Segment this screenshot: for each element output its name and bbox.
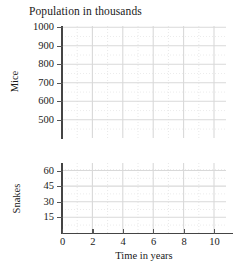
- x-axis-line: [61, 233, 233, 235]
- chart-title: Population in thousands: [29, 5, 142, 17]
- xtick-label-4: 4: [111, 236, 135, 247]
- xtick-label-6: 6: [142, 236, 166, 247]
- mice-gridlines: [62, 26, 226, 138]
- snakes-ytick-60: [57, 171, 63, 172]
- xtick-6: [153, 229, 154, 234]
- mice-plot-area: [62, 26, 226, 138]
- xtick-label-10: 10: [202, 236, 226, 247]
- mice-ytick-800: [57, 64, 63, 65]
- snakes-y-axis-line: [61, 163, 63, 234]
- snakes-ytick-45: [57, 186, 63, 187]
- mice-ytick-1000: [57, 27, 63, 28]
- mice-axis-title: Mice: [9, 60, 20, 104]
- xtick-0: [62, 229, 63, 234]
- snakes-ytick-label-45: 45: [20, 181, 54, 192]
- snakes-plot-area: [62, 163, 226, 233]
- mice-ytick-600: [57, 101, 63, 102]
- population-chart-figure: Population in thousands: [0, 0, 239, 273]
- snakes-ytick-15: [57, 217, 63, 218]
- xtick-2: [92, 229, 93, 234]
- x-axis-title: Time in years: [62, 250, 226, 261]
- xtick-8: [184, 229, 185, 234]
- xtick-label-2: 2: [81, 236, 105, 247]
- mice-ytick-label-900: 900: [20, 41, 54, 52]
- xtick-4: [123, 229, 124, 234]
- xtick-label-0: 0: [51, 236, 75, 247]
- snakes-ytick-label-30: 30: [20, 197, 54, 208]
- snakes-ytick-label-60: 60: [20, 166, 54, 177]
- mice-ytick-label-800: 800: [20, 59, 54, 70]
- mice-ytick-label-500: 500: [20, 115, 54, 126]
- snakes-gridlines: [62, 163, 226, 233]
- mice-ytick-700: [57, 83, 63, 84]
- mice-ytick-label-1000: 1000: [20, 22, 54, 33]
- snakes-axis-title: Snakes: [11, 171, 22, 227]
- mice-ytick-500: [57, 120, 63, 121]
- snakes-ytick-label-15: 15: [20, 212, 54, 223]
- mice-ytick-900: [57, 46, 63, 47]
- xtick-label-8: 8: [172, 236, 196, 247]
- mice-ytick-label-700: 700: [20, 78, 54, 89]
- mice-ytick-label-600: 600: [20, 96, 54, 107]
- snakes-ytick-30: [57, 202, 63, 203]
- xtick-10: [214, 229, 215, 234]
